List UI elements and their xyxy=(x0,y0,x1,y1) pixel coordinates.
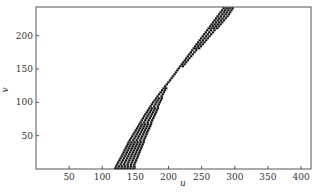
x-tick-label: 150 xyxy=(127,172,144,182)
x-tick-label: 250 xyxy=(193,172,210,182)
y-tick-label: 50 xyxy=(22,131,34,141)
x-tick-label: 300 xyxy=(226,172,243,182)
y-axis-label: v xyxy=(0,87,10,92)
plot-frame xyxy=(36,7,311,169)
x-tick-label: 400 xyxy=(292,172,309,182)
x-tick-label: 100 xyxy=(94,172,111,182)
y-tick-label: 100 xyxy=(16,97,33,107)
scatter-chart: 50100150200250300350400 50100150200 u v xyxy=(0,0,317,196)
data-band xyxy=(114,7,234,169)
y-tick-label: 150 xyxy=(16,64,33,74)
x-tick-label: 50 xyxy=(63,172,75,182)
y-tick-label: 200 xyxy=(16,31,33,41)
x-tick-label: 350 xyxy=(259,172,276,182)
x-axis-label: u xyxy=(180,178,186,188)
x-axis: 50100150200250300350400 xyxy=(63,166,310,182)
x-tick-label: 200 xyxy=(160,172,177,182)
